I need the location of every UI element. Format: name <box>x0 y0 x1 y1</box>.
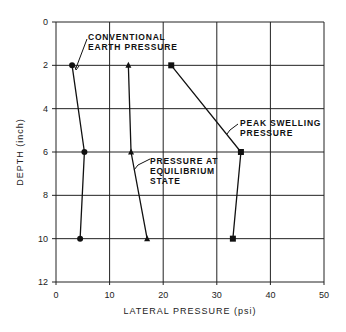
y-tick-label: 12 <box>38 277 48 287</box>
square-marker <box>168 62 174 68</box>
y-tick-label: 6 <box>43 147 48 157</box>
y-tick-label: 8 <box>43 190 48 200</box>
y-tick-label: 2 <box>43 60 48 70</box>
circle-marker <box>77 236 83 242</box>
x-tick-label: 10 <box>105 290 115 300</box>
y-axis-label: DEPTH (inch) <box>15 118 25 186</box>
x-tick-label: 20 <box>158 290 168 300</box>
y-tick-label: 0 <box>43 17 48 27</box>
y-tick-label: 10 <box>38 234 48 244</box>
annotation-peak-line1: PEAK SWELLING <box>240 118 321 128</box>
x-tick-label: 30 <box>212 290 222 300</box>
lateral-pressure-chart: 01020304050024681012 CONVENTIONAL EARTH … <box>0 0 346 332</box>
leader-peak <box>227 124 238 134</box>
annotation-equilibrium-line1: PRESSURE AT <box>150 156 218 166</box>
annotation-equilibrium-line3: STATE <box>150 176 181 186</box>
circle-marker <box>81 149 87 155</box>
square-marker <box>230 236 236 242</box>
grid <box>52 22 324 285</box>
x-tick-label: 0 <box>53 290 58 300</box>
leader-equilibrium <box>134 159 150 170</box>
x-tick-label: 50 <box>319 290 329 300</box>
square-marker <box>238 149 244 155</box>
annotation-equilibrium-line2: EQUILIBRIUM <box>150 166 215 176</box>
annotation-peak-line2: PRESSURE <box>240 128 293 138</box>
x-tick-label: 40 <box>265 290 275 300</box>
annotation-leaders <box>74 39 238 170</box>
annotation-conventional-line1: CONVENTIONAL <box>88 32 166 42</box>
x-axis-label: LATERAL PRESSURE (psi) <box>123 306 256 316</box>
annotation-conventional-line2: EARTH PRESSURE <box>88 42 178 52</box>
y-tick-label: 4 <box>43 104 48 114</box>
